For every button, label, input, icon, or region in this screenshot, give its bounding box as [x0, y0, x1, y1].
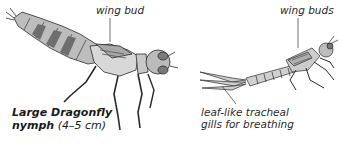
- species-name-line2: nymph: [12, 119, 54, 132]
- damselfly-nymph-drawing: [200, 18, 338, 104]
- wing-buds-callout: wing buds: [280, 4, 334, 16]
- gills-callout-line1: leaf-like tracheal: [201, 106, 294, 118]
- tracheal-gills-callout: leaf-like tracheal gills for breathing: [201, 106, 294, 130]
- wing-bud-callout: wing bud: [96, 4, 144, 16]
- species-title: Large Dragonfly nymph (4–5 cm): [12, 106, 112, 132]
- species-size: (4–5 cm): [58, 119, 106, 132]
- species-name-line1: Large Dragonfly: [12, 106, 112, 119]
- insect-nymph-figure: wing bud Large Dragonfly nymph (4–5 cm) …: [0, 0, 339, 144]
- gills-callout-line2: gills for breathing: [201, 118, 294, 130]
